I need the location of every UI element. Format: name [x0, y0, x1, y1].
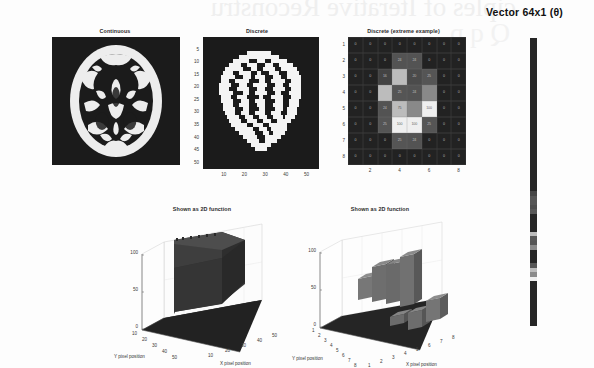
- surface-discrete-y-axis-label: Y pixel position: [292, 356, 323, 361]
- surface-discrete-xtick-5: 5: [416, 347, 419, 352]
- grid-cell: 0: [451, 117, 466, 133]
- grid-cell: 0: [378, 37, 393, 53]
- grid-cell: 0: [378, 149, 393, 165]
- surface-continuous-ytick-10: 10: [132, 331, 137, 336]
- surface-discrete-ytick-3: 3: [324, 338, 327, 343]
- surface-discrete-ytick-1: 1: [312, 328, 315, 333]
- grid-cell-value: 0: [354, 91, 356, 95]
- brain-continuous-svg: [52, 37, 180, 165]
- brain-discrete-svg: [203, 37, 319, 169]
- grid-cell-value: 0: [458, 155, 460, 159]
- extreme-example-grid: 0000000000024240000016202500002524000024…: [348, 37, 466, 165]
- surface-discrete-xtick-2: 2: [380, 359, 383, 364]
- discrete-ytick: 5: [184, 47, 199, 52]
- surface-discrete-ztick-50: 50: [298, 285, 316, 290]
- grid-cell: 0: [437, 53, 452, 69]
- panel-discrete-extreme: Discrete (extreme example) 0000000000024…: [330, 28, 480, 196]
- surface-continuous-xtick-50: 50: [272, 333, 277, 338]
- grid-cell: 0: [422, 37, 437, 53]
- grid-cell: 0: [451, 37, 466, 53]
- grid-cell-value: 0: [384, 139, 386, 143]
- extreme-grid-xtick: 2: [364, 168, 376, 173]
- grid-cell: 0: [407, 37, 422, 53]
- grid-cell: 0: [437, 37, 452, 53]
- grid-cell: 0: [363, 69, 378, 85]
- grid-cell-value: 0: [443, 75, 445, 79]
- grid-cell: 0: [348, 85, 363, 101]
- grid-cell: 0: [378, 53, 393, 69]
- grid-cell: 0: [348, 69, 363, 85]
- surface-continuous-ytick-20: 20: [142, 337, 147, 342]
- grid-cell-value: 0: [354, 59, 356, 63]
- grid-cell: 0: [348, 117, 363, 133]
- grid-cell: 0: [451, 69, 466, 85]
- grid-cell: [392, 69, 407, 85]
- grid-cell-value: 24: [398, 59, 402, 63]
- grid-cell: 0: [392, 149, 407, 165]
- surface-continuous-ytick-30: 30: [152, 343, 157, 348]
- grid-cell-value: 100: [426, 107, 432, 111]
- grid-cell: 100: [392, 117, 407, 133]
- grid-cell-value: 0: [458, 91, 460, 95]
- surface-continuous-xtick-20: 20: [225, 348, 230, 353]
- grid-cell-value: 0: [458, 107, 460, 111]
- discrete-ytick: 15: [184, 72, 199, 77]
- grid-cell-value: 0: [428, 139, 430, 143]
- grid-cell: 24: [407, 53, 422, 69]
- grid-cell-value: 100: [397, 123, 403, 127]
- panel-discrete: Discrete: [182, 28, 332, 196]
- grid-cell-value: 0: [443, 107, 445, 111]
- grid-cell-value: 100: [411, 123, 417, 127]
- grid-cell-value: 0: [458, 75, 460, 79]
- grid-cell-value: 0: [354, 123, 356, 127]
- grid-cell: 0: [363, 117, 378, 133]
- grid-cell-value: 0: [384, 155, 386, 159]
- grid-cell-value: 16: [383, 75, 387, 79]
- discrete-xtick: 30: [258, 172, 272, 177]
- extreme-grid-ytick: 4: [332, 90, 345, 95]
- panel-continuous: Continuous: [40, 28, 190, 188]
- grid-cell: 0: [451, 101, 466, 117]
- grid-cell: [422, 85, 437, 101]
- extreme-grid-xtick: 8: [453, 168, 465, 173]
- discrete-xtick: 20: [237, 172, 251, 177]
- grid-cell: 0: [363, 85, 378, 101]
- surface-discrete-xtick-4: 4: [404, 351, 407, 356]
- surface-discrete-title: Shown as 2D function: [310, 206, 450, 212]
- grid-cell-value: 24: [412, 91, 416, 95]
- panel-discrete-title: Discrete: [182, 28, 332, 34]
- surface-discrete-ytick-7: 7: [348, 358, 351, 363]
- grid-cell: 20: [407, 69, 422, 85]
- grid-cell-value: 0: [443, 139, 445, 143]
- grid-cell-value: 0: [413, 43, 415, 47]
- grid-cell-value: 0: [369, 59, 371, 63]
- surface-continuous-x-axis-label: X pixel position: [220, 361, 251, 366]
- continuous-brain-image: [52, 37, 180, 165]
- surface-discrete-xtick-7: 7: [440, 339, 443, 344]
- surface-discrete-xtick-1: 1: [368, 363, 371, 368]
- grid-cell-value: 0: [443, 123, 445, 127]
- grid-cell: 0: [451, 133, 466, 149]
- surface-discrete-ytick-6: 6: [342, 353, 345, 358]
- grid-cell-value: 0: [369, 75, 371, 79]
- grid-cell: 25: [422, 69, 437, 85]
- discrete-ytick: 50: [184, 160, 199, 165]
- grid-cell: 16: [378, 69, 393, 85]
- grid-cell-value: 0: [384, 43, 386, 47]
- grid-cell: 25: [392, 85, 407, 101]
- extreme-grid-xtick: 6: [423, 168, 435, 173]
- panel-vector: Vector 64x1 (θ): [486, 4, 594, 334]
- grid-cell-value: 25: [398, 91, 402, 95]
- surface-continuous-ytick-50: 50: [172, 355, 177, 360]
- grid-cell: 0: [437, 149, 452, 165]
- extreme-grid-ytick: 5: [332, 106, 345, 111]
- grid-cell-value: 0: [413, 155, 415, 159]
- vector-title: Vector 64x1 (θ): [486, 6, 563, 18]
- grid-cell: [378, 85, 393, 101]
- panel-surface-discrete: Shown as 2D function: [290, 206, 470, 366]
- surface-continuous-ztick-50: 50: [120, 287, 138, 292]
- grid-cell-value: 0: [354, 107, 356, 111]
- grid-cell-value: 0: [354, 155, 356, 159]
- grid-cell: 0: [348, 101, 363, 117]
- discrete-xtick: 40: [279, 172, 293, 177]
